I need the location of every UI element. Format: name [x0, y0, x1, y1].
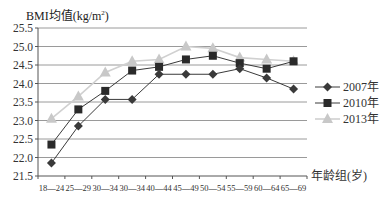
legend-marker — [323, 83, 332, 92]
line-chart: 21.522.022.523.023.524.024.525.025.5 18—… — [0, 0, 382, 205]
data-point-marker — [74, 105, 82, 113]
data-point-marker — [182, 55, 190, 63]
x-tick-label: 50—54 — [200, 183, 226, 193]
y-tick-label: 25.5 — [13, 22, 33, 34]
data-point-marker — [128, 67, 136, 75]
data-point-marker — [208, 70, 217, 79]
legend-item: 2013年 — [315, 112, 379, 126]
data-point-marker — [47, 141, 55, 149]
data-point-marker — [181, 70, 190, 79]
y-tick-label: 24.5 — [13, 59, 33, 71]
series-2007年 — [47, 64, 298, 167]
data-point-marker — [46, 113, 57, 123]
data-point-marker — [47, 159, 56, 168]
x-axis: 18—2425—2930—3430—3440—4445—4950—5455—59… — [38, 168, 367, 193]
y-axis: 21.522.022.523.023.524.024.525.025.5 — [13, 22, 38, 182]
data-point-marker — [263, 65, 271, 73]
y-tick-label: 24.0 — [13, 78, 33, 90]
x-tick-label: 40—44 — [146, 183, 172, 193]
y-tick-label: 22.0 — [13, 152, 33, 164]
series-2010年 — [47, 52, 297, 149]
legend-item: 2007年 — [315, 80, 379, 94]
data-point-marker — [101, 87, 109, 95]
legend-label: 2010年 — [343, 96, 379, 110]
x-tick-label: 45—49 — [173, 183, 199, 193]
series-2013年 — [46, 41, 299, 123]
y-tick-label: 22.5 — [13, 133, 33, 145]
legend-marker — [324, 99, 332, 107]
legend-label: 2007年 — [343, 80, 379, 94]
series-line — [51, 56, 293, 145]
legend: 2007年2010年2013年 — [315, 80, 379, 126]
y-tick-label: 25.0 — [13, 41, 33, 53]
x-tick-label: 30—34 — [119, 183, 145, 193]
y-tick-label: 21.5 — [13, 170, 33, 182]
data-point-marker — [180, 41, 191, 51]
x-tick-label: 55—59 — [227, 183, 253, 193]
series-line — [51, 47, 293, 119]
data-point-marker — [290, 57, 298, 65]
data-series — [46, 41, 299, 168]
data-point-marker — [209, 52, 217, 60]
legend-label: 2013年 — [343, 112, 379, 126]
y-tick-label: 23.0 — [13, 115, 33, 127]
series-line — [51, 69, 293, 163]
legend-item: 2010年 — [315, 96, 379, 110]
x-tick-label: 18—24 — [39, 183, 65, 193]
x-axis-title: 年龄组(岁) — [311, 168, 367, 183]
y-tick-label: 23.5 — [13, 96, 33, 108]
x-tick-label: 65—69 — [281, 183, 307, 193]
legend-marker — [322, 113, 333, 123]
data-point-marker — [289, 85, 298, 94]
x-tick-label: 60—64 — [254, 183, 280, 193]
data-point-marker — [262, 73, 271, 82]
x-tick-label: 30—34 — [93, 183, 119, 193]
data-point-marker — [155, 63, 163, 71]
x-tick-label: 25—29 — [66, 183, 92, 193]
